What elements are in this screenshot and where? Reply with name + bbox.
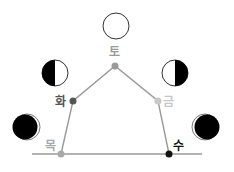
element-path <box>61 66 169 154</box>
node-hwa <box>70 98 77 105</box>
node-su <box>166 151 173 158</box>
label-to: 토 <box>109 45 120 59</box>
label-hwa: 화 <box>55 94 66 109</box>
half-moon-dark-right-icon <box>162 60 188 86</box>
label-geum: 금 <box>163 95 174 109</box>
node-mok <box>58 151 65 158</box>
label-su: 수 <box>173 139 184 153</box>
node-to <box>112 63 119 70</box>
node-geum <box>155 98 162 105</box>
crescent-moon-lit-left-icon <box>192 114 220 140</box>
label-mok: 목 <box>45 139 56 153</box>
half-moon-dark-left-icon <box>42 60 68 86</box>
full-moon-icon <box>103 13 129 39</box>
five-elements-moon-diagram: 토 화 금 목 수 <box>0 0 234 172</box>
crescent-moon-lit-right-icon <box>13 114 41 140</box>
